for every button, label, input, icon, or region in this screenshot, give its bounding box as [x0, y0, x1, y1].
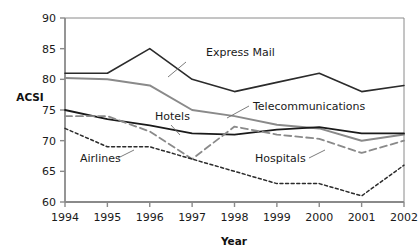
x-tick-label: 2001 — [348, 211, 376, 224]
x-tick-label: 1997 — [178, 211, 206, 224]
x-tick-label: 1999 — [263, 211, 291, 224]
series-label-express-mail: Express Mail — [206, 46, 275, 59]
series-label-hotels: Hotels — [155, 110, 190, 123]
y-tick-label: 85 — [42, 43, 56, 56]
x-tick-label: 1995 — [93, 211, 121, 224]
x-tick-label: 1994 — [51, 211, 79, 224]
chart-container: 60657075808590 1994199519961997199819992… — [0, 0, 419, 252]
y-tick-label: 70 — [42, 135, 56, 148]
y-tick-label: 75 — [42, 104, 56, 117]
y-tick-label: 80 — [42, 73, 56, 86]
series-label-hospitals: Hospitals — [255, 152, 306, 165]
y-axis-title: ACSI — [16, 91, 44, 103]
x-tick-label: 1996 — [136, 211, 164, 224]
y-tick-label: 60 — [42, 196, 56, 209]
y-tick-label: 90 — [42, 12, 56, 25]
x-tick-label: 2000 — [305, 211, 333, 224]
x-axis-title: Year — [220, 235, 248, 247]
series-label-airlines: Airlines — [80, 152, 121, 165]
x-tick-label: 1998 — [221, 211, 249, 224]
series-label-telecommunications: Telecommunications — [252, 100, 366, 113]
acsi-line-chart: 60657075808590 1994199519961997199819992… — [0, 0, 419, 252]
x-tick-label: 2002 — [390, 211, 418, 224]
y-tick-label: 65 — [42, 165, 56, 178]
